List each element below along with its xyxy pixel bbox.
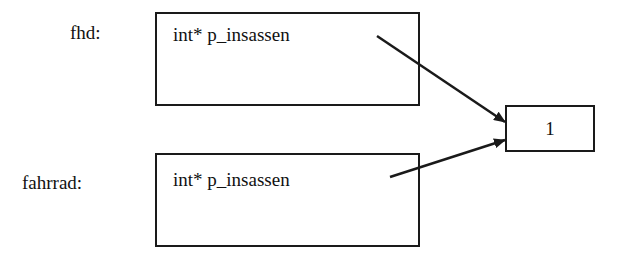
pointer-arrows bbox=[0, 0, 625, 267]
arrow-fhd-to-value bbox=[377, 36, 505, 122]
arrow-fahrrad-to-value bbox=[390, 140, 505, 177]
